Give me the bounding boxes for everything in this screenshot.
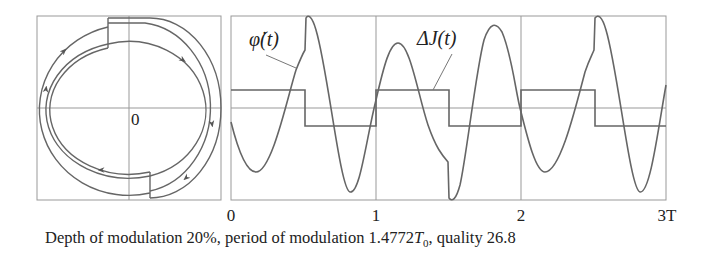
phase-portrait	[37, 16, 221, 200]
phi-dot-label: φ̇(t)	[249, 28, 279, 51]
caption-suffix: , quality 26.8	[429, 228, 516, 247]
caption-prefix: Depth of modulation 20%, period of modul…	[45, 228, 414, 247]
x-tick-1: 1	[372, 206, 381, 226]
figure-caption: Depth of modulation 20%, period of modul…	[45, 228, 516, 249]
phi-dot-leader	[266, 55, 296, 68]
arrow-icon	[45, 89, 46, 96]
x-tick-3T: 3T	[658, 206, 677, 226]
figure-canvas	[0, 0, 720, 260]
arrow-icon	[186, 170, 195, 178]
x-tick-2: 2	[517, 206, 526, 226]
delta-j-leader	[433, 54, 452, 90]
arrow-icon	[211, 118, 212, 124]
x-tick-0: 0	[227, 206, 236, 226]
caption-T: T	[414, 228, 423, 247]
delta-j-label: ΔJ(t)	[417, 27, 457, 50]
origin-label: 0	[131, 110, 140, 130]
